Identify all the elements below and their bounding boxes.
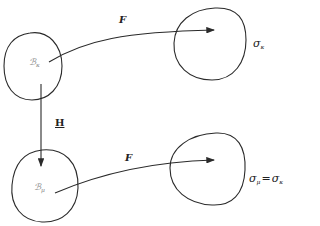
- body-kappa-label: ℬκ: [29, 58, 40, 68]
- stress-mu-subscript: μ: [257, 178, 261, 185]
- stress-kappa-label: σκ: [253, 38, 264, 50]
- bottom-map-arrow: [55, 160, 214, 193]
- stress-kappa-symbol: σ: [253, 37, 261, 50]
- stress-kappa-subscript: κ: [261, 43, 265, 50]
- vertical-map-label: H: [55, 118, 64, 128]
- stress-mu-label: σμ=σκ: [249, 173, 283, 185]
- bottom-map-label: F: [125, 153, 132, 163]
- body-kappa-subscript: κ: [36, 61, 40, 68]
- stress-mu-symbol: σ: [249, 172, 257, 185]
- body-kappa-symbol: ℬ: [29, 57, 36, 67]
- equals-sign: =: [261, 172, 270, 185]
- body-mu-label: ℬμ: [34, 183, 45, 193]
- stress-rhs-subscript: κ: [279, 178, 283, 185]
- top-map-arrow: [49, 30, 214, 62]
- stress-mu-region: [170, 133, 245, 205]
- top-map-label: F: [119, 15, 126, 25]
- stress-kappa-region: [174, 8, 246, 80]
- body-mu-subscript: μ: [41, 186, 45, 193]
- body-mu-symbol: ℬ: [34, 182, 41, 192]
